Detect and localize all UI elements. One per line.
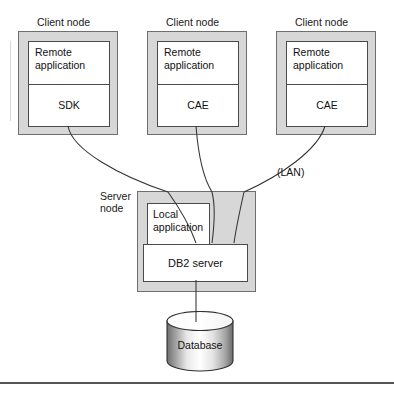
client-node-2-caption: Client node xyxy=(166,16,219,28)
server-node-caption: Server node xyxy=(100,190,131,214)
client-node-3-caption: Client node xyxy=(295,16,348,28)
lan-label: (LAN) xyxy=(277,166,304,178)
client-node-1-stack: Remote application SDK xyxy=(28,41,110,127)
client-node-1-remote-application-line2: application xyxy=(35,59,103,72)
server-local-application-line1: Local xyxy=(153,208,204,221)
scan-artifact-line xyxy=(10,41,11,121)
client-node-1-remote-application-line1: Remote xyxy=(35,46,103,59)
diagram-canvas: Client node Remote application SDK Clien… xyxy=(0,0,394,397)
connector-client2-to-server xyxy=(196,126,212,192)
client-node-3-remote-application-line2: application xyxy=(293,59,361,72)
server-node-caption-line2: node xyxy=(100,202,131,214)
client-node-1-remote-application: Remote application xyxy=(29,42,109,85)
client-node-2[interactable]: Remote application CAE xyxy=(147,31,247,135)
client-node-3-remote-application: Remote application xyxy=(287,42,367,85)
client-node-2-remote-application-line2: application xyxy=(164,59,232,72)
client-node-1-client-type: SDK xyxy=(29,85,109,126)
client-node-3-client-type: CAE xyxy=(287,85,367,126)
connector-client3-to-server xyxy=(244,126,325,192)
client-node-1[interactable]: Remote application SDK xyxy=(18,31,118,135)
client-node-2-client-type: CAE xyxy=(158,85,238,126)
server-node-caption-line1: Server xyxy=(100,190,131,202)
server-local-application-line2: application xyxy=(153,221,204,234)
client-node-3-remote-application-line1: Remote xyxy=(293,46,361,59)
client-node-2-remote-application: Remote application xyxy=(158,42,238,85)
db2-server-box: DB2 server xyxy=(143,244,248,282)
database-cylinder[interactable]: Database xyxy=(166,311,234,373)
connector-client1-to-server xyxy=(68,126,168,192)
server-local-application: Local application xyxy=(147,203,210,246)
client-node-3[interactable]: Remote application CAE xyxy=(276,31,376,135)
client-node-2-stack: Remote application CAE xyxy=(157,41,239,127)
client-node-3-stack: Remote application CAE xyxy=(286,41,368,127)
client-node-2-remote-application-line1: Remote xyxy=(164,46,232,59)
client-node-1-caption: Client node xyxy=(37,16,90,28)
bottom-divider xyxy=(0,382,394,384)
server-node[interactable]: Local application DB2 server xyxy=(137,191,256,292)
database-label: Database xyxy=(166,339,234,351)
